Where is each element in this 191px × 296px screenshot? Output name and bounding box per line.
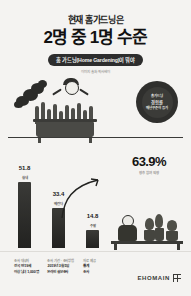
bar-value-0: 51.8	[19, 165, 31, 171]
legend-line-2-2: 조사	[83, 270, 95, 276]
person-left-arm	[52, 89, 62, 96]
illustration-scene: 홈가드닝 경험률 매년 꾸준히 증가	[0, 78, 191, 144]
person-head	[65, 81, 79, 95]
sitting-person-illustration	[117, 215, 139, 241]
pot-1	[144, 230, 155, 241]
header-subcaption: 이미지 출처: 픽사베이	[0, 69, 191, 74]
bar-chart: 51.8 실내 33.4 베란다 14.8 주말 63.9% 향후 참여 의향	[0, 148, 191, 254]
bar-2	[86, 230, 99, 248]
pot-3	[166, 231, 178, 241]
highlight-caption: 향후 참여 의향	[113, 170, 185, 175]
header-badge: 홈 가드닝(Home Gardening)이 뭐야	[48, 54, 143, 66]
bar-caption-2: 주말	[90, 223, 96, 228]
legend-line-0-2: 이상 남녀 1,000명	[14, 270, 38, 276]
legend-line-1-2: 온라인 설문조사	[47, 270, 74, 276]
bar-caption-0: 실내	[22, 175, 28, 180]
legend-column-1: 조사 기간 · 조사방법 2019년 3월 5일 온라인 설문조사	[47, 259, 74, 275]
planter-box-illustration	[36, 122, 94, 137]
leaf-shape-3	[167, 220, 177, 231]
sitting-person-body	[118, 225, 137, 241]
person-right-arm	[79, 89, 89, 96]
circle-badge-line3: 매년 꾸준히 증가	[146, 106, 169, 111]
brand-logo-text: EHOMAIN	[137, 275, 170, 281]
leaf-shape-1	[145, 218, 154, 230]
poster-header: 현재 홈가드닝은 2명 중 1명 수준 홈 가드닝(Home Gardening…	[0, 14, 191, 74]
bar-group-2: 14.8 주말	[86, 222, 99, 248]
bar-0	[18, 182, 31, 248]
leaf-shape-2	[155, 214, 163, 228]
circle-stat-badge: 홈가드닝 경험률 매년 꾸준히 증가	[136, 81, 178, 123]
footer-legend: 조사 대상자 전국 만 19세 이상 남녀 1,000명 조사 기간 · 조사방…	[14, 259, 96, 275]
circle-stat-badge-inner: 홈가드닝 경험률 매년 꾸준히 증가	[142, 87, 173, 118]
brand-logo-mark-icon	[173, 274, 181, 282]
circle-badge-line2: 경험률	[151, 100, 163, 105]
highlight-percent: 63.9%	[113, 154, 185, 169]
legend-column-0: 조사 대상자 전국 만 19세 이상 남녀 1,000명	[14, 259, 38, 275]
header-eyebrow: 현재 홈가드닝은	[0, 14, 191, 26]
desk-illustration	[111, 210, 183, 250]
infographic-poster: 현재 홈가드닝은 2명 중 1명 수준 홈 가드닝(Home Gardening…	[0, 0, 191, 296]
page-title: 2명 중 1명 수준	[0, 28, 191, 48]
pot-2	[155, 228, 164, 241]
brand-logo: EHOMAIN	[137, 274, 181, 282]
legend-column-2: 자료 제공 통계 조사	[83, 259, 95, 275]
ground-line	[8, 137, 183, 139]
circle-badge-line1: 홈가드닝	[151, 94, 163, 99]
desk-surface	[111, 241, 183, 244]
bar-group-0: 51.8 실내	[18, 174, 31, 248]
poster-footer: 조사 대상자 전국 만 19세 이상 남녀 1,000명 조사 기간 · 조사방…	[0, 251, 191, 296]
highlight-stat: 63.9% 향후 참여 의향	[113, 154, 185, 175]
